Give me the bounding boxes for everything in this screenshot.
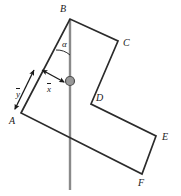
x-vector-label: x [47, 83, 51, 94]
figure-container: A B C D E F α x y [0, 0, 181, 196]
linkage-diagram [0, 0, 181, 196]
x-vector-symbol: x [47, 84, 51, 94]
angle-arc [56, 50, 70, 55]
vertex-label-b: B [60, 4, 66, 14]
pivot-point-marker [66, 77, 75, 86]
x-axis-vector [42, 70, 64, 82]
y-vector-symbol: y [16, 89, 20, 99]
vertex-label-d: D [96, 93, 103, 103]
vertex-label-f: F [138, 178, 144, 188]
linkage-body-outline [21, 19, 156, 174]
vertex-label-c: C [123, 38, 130, 48]
vertex-label-a: A [9, 116, 15, 126]
vertex-label-e: E [162, 132, 168, 142]
y-vector-label: y [16, 88, 20, 99]
angle-alpha-label: α [62, 40, 67, 49]
